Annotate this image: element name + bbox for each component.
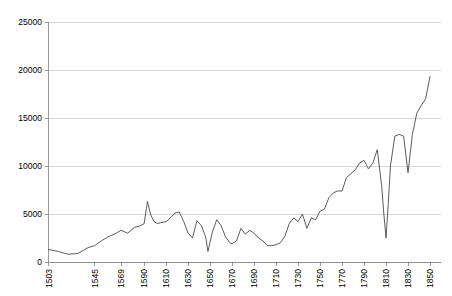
x-tick-label-1850: 1850 [425, 269, 435, 288]
x-tick-label-1503: 1503 [44, 269, 54, 288]
x-tick-label-1650: 1650 [205, 269, 215, 288]
y-tick-label-0: 0 [37, 257, 42, 267]
x-tick-label-1569: 1569 [116, 269, 126, 288]
x-tick-label-1710: 1710 [271, 269, 281, 288]
y-tick-label-10000: 10000 [18, 161, 42, 171]
x-tick-label-1810: 1810 [381, 269, 391, 288]
x-tick-label-1670: 1670 [227, 269, 237, 288]
line-chart: 0500010000150002000025000150315451569159… [0, 0, 452, 296]
gridlines [49, 22, 442, 262]
x-tick-label-1750: 1750 [315, 269, 325, 288]
x-tick-label-1790: 1790 [359, 269, 369, 288]
x-axis: 1503154515691590161016301650167016901710… [44, 262, 441, 288]
x-tick-label-1545: 1545 [90, 269, 100, 288]
y-tick-label-15000: 15000 [18, 113, 42, 123]
x-tick-label-1630: 1630 [183, 269, 193, 288]
x-tick-label-1610: 1610 [161, 269, 171, 288]
x-tick-label-1730: 1730 [293, 269, 303, 288]
series-group [49, 77, 431, 255]
y-axis: 0500010000150002000025000 [18, 17, 48, 267]
series-line-0 [49, 77, 431, 255]
y-tick-label-25000: 25000 [18, 17, 42, 27]
chart-canvas: 0500010000150002000025000150315451569159… [0, 0, 452, 296]
y-tick-label-20000: 20000 [18, 65, 42, 75]
y-tick-label-5000: 5000 [23, 209, 42, 219]
x-tick-label-1770: 1770 [337, 269, 347, 288]
x-tick-label-1830: 1830 [403, 269, 413, 288]
x-tick-label-1690: 1690 [249, 269, 259, 288]
x-tick-label-1590: 1590 [139, 269, 149, 288]
